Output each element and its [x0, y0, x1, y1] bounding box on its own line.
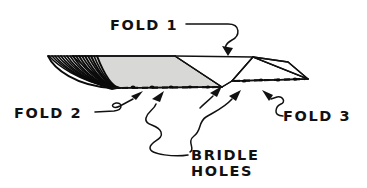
callout-fold-1: FOLD 1 [110, 17, 238, 56]
bridle-holes-label-line1: BRIDLE [191, 147, 259, 163]
fold-3-label: FOLD 3 [283, 108, 351, 124]
fold-2-leader-line [95, 99, 133, 112]
fold-diagram-figure: FOLD 1 FOLD 2 FOLD 3 BRIDLE HOLES [0, 0, 367, 188]
fold-1-label: FOLD 1 [110, 17, 178, 33]
callout-fold-2: FOLD 2 [14, 91, 143, 121]
fold-1-arrowhead [222, 46, 233, 56]
bridle-right-leader-line [190, 99, 232, 152]
folded-piece-illustration [48, 56, 308, 90]
bridle-left-leader-line [146, 104, 188, 156]
fold-2-label: FOLD 2 [14, 105, 82, 121]
bridle-left-arrowhead [152, 91, 164, 102]
bridle-extra-leader-stub [200, 96, 213, 108]
fold-diagram-canvas: FOLD 1 FOLD 2 FOLD 3 BRIDLE HOLES [0, 0, 367, 188]
fold-3-leader-line [271, 97, 284, 116]
callout-bridle-holes: BRIDLE HOLES [146, 86, 260, 179]
bridle-holes-label-line2: HOLES [191, 163, 253, 179]
callout-fold-3: FOLD 3 [262, 90, 351, 124]
